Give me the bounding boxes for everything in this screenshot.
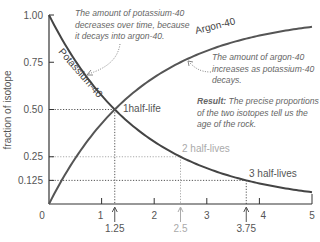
y-tick-label: 0.50 — [24, 104, 44, 115]
x-tick-label: 2 — [151, 210, 157, 221]
potassium-annotation-line: decreases over time, because — [75, 20, 190, 30]
half-life-label: 2 half-lives — [182, 143, 230, 154]
x-marker-label: 3.75 — [237, 223, 257, 234]
x-tick-label: 0 — [39, 210, 45, 221]
potassium-40-label: Potassium-40 — [56, 46, 105, 100]
half-life-label: 1half-life — [123, 103, 161, 114]
result-bold: Result: — [197, 96, 226, 106]
argon-annotation-line: increases as potassium-40 — [212, 64, 314, 74]
result-annotation-line: Result: The precise proportions — [197, 96, 320, 106]
potassium-annotation-line: The amount of potassium-40 — [75, 8, 185, 18]
argon-40-label: Argon-40 — [194, 15, 237, 36]
x-tick-label: 5 — [309, 210, 315, 221]
y-tick-label: 0.125 — [18, 175, 43, 186]
potassium-pointer — [88, 44, 120, 74]
result-annotation-line: of the two isotopes tell us the — [197, 108, 308, 118]
result-annotation-line: age of the rock. — [197, 119, 256, 129]
y-tick-label: 1.00 — [24, 10, 44, 21]
x-marker-label: 2.5 — [174, 223, 188, 234]
potassium-annotation-line: it decays into argon-40. — [75, 31, 164, 41]
y-tick-label: 0.75 — [24, 57, 44, 68]
y-tick-label: 0.25 — [24, 151, 44, 162]
x-tick-label: 3 — [204, 210, 210, 221]
x-tick-label: 1 — [98, 210, 104, 221]
result-text: The precise proportions — [226, 96, 319, 106]
decay-chart: 1.252.53.751.000.750.500.250.125012345fr… — [0, 0, 320, 242]
half-life-label: 3 half-lives — [249, 168, 297, 179]
x-tick-label: 4 — [261, 210, 267, 221]
argon-annotation-line: The amount of argon-40 — [212, 52, 304, 62]
y-axis-label: fraction of isotope — [2, 70, 13, 149]
argon-pointer — [189, 62, 211, 72]
x-marker-label: 1.25 — [105, 223, 125, 234]
argon-annotation-line: decays. — [212, 75, 242, 85]
